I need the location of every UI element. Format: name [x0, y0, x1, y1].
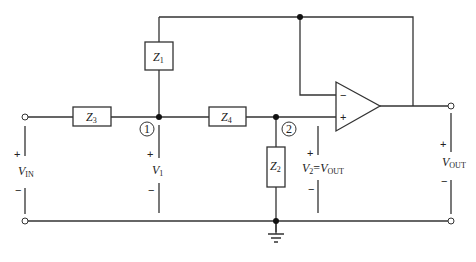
output-terminal-bottom [448, 218, 454, 224]
voltage-v1: + V1 − [147, 125, 163, 213]
svg-text:−: − [308, 183, 314, 195]
svg-text:V1: V1 [152, 163, 163, 178]
voltage-vin: + VIN − [14, 126, 34, 214]
input-terminal-bottom [22, 218, 28, 224]
svg-text:VIN: VIN [18, 164, 34, 179]
ground-icon [268, 221, 284, 242]
junction-dot-top [297, 14, 303, 20]
inverting-feedback-wire [300, 17, 336, 95]
node-label-1: 1 [140, 122, 154, 136]
opamp-minus-label: − [340, 89, 346, 101]
node-label-2: 2 [282, 122, 296, 136]
voltage-vout: + VOUT − [440, 113, 466, 214]
svg-text:+: + [147, 148, 153, 160]
voltage-v2: + V2=VOUT − [302, 126, 344, 213]
impedance-z1: Z1 [145, 42, 173, 70]
svg-text:−: − [15, 184, 21, 196]
input-terminal-top [22, 114, 28, 120]
junction-dot-ground [273, 218, 279, 224]
svg-text:−: − [441, 175, 447, 187]
impedance-z2: Z2 [267, 147, 285, 187]
svg-text:+: + [440, 138, 446, 150]
svg-text:2: 2 [286, 122, 292, 136]
svg-text:1: 1 [144, 122, 150, 136]
impedance-z4: Z4 [209, 107, 246, 126]
opamp: − + [336, 82, 380, 131]
svg-text:VOUT: VOUT [442, 155, 466, 170]
svg-text:V2=VOUT: V2=VOUT [302, 161, 344, 176]
svg-text:+: + [14, 148, 20, 160]
junction-dot-node1 [156, 114, 162, 120]
circuit-diagram: − + Z1 Z3 Z4 Z2 1 2 + VIN − [0, 0, 476, 262]
svg-text:+: + [307, 147, 313, 159]
impedance-z3: Z3 [73, 107, 111, 126]
output-terminal-top [448, 103, 454, 109]
junction-dot-node2 [273, 114, 279, 120]
svg-text:−: − [148, 184, 154, 196]
opamp-plus-label: + [340, 111, 346, 123]
top-wire [159, 17, 413, 106]
